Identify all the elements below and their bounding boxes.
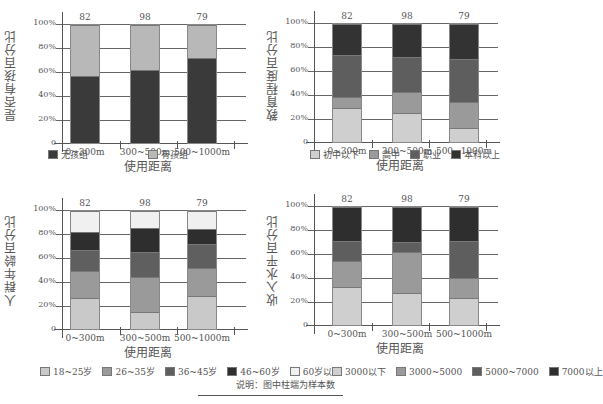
bar-segment <box>393 92 421 112</box>
bar-segment <box>71 298 99 329</box>
y-axis-label: 人群年龄百分比 <box>2 215 19 306</box>
legend-label: 本科以上 <box>464 148 500 161</box>
legend-item: 26~35岁 <box>102 365 154 378</box>
bar-segment <box>450 128 478 142</box>
y-tick-label: 20% <box>26 300 56 309</box>
legend-label: 3000以下 <box>345 365 386 378</box>
bar-segment <box>393 113 421 143</box>
legend-item: 本科以上 <box>451 148 500 161</box>
y-tick-label: 60% <box>26 66 56 75</box>
bar-segment <box>333 97 361 108</box>
bar-segment <box>188 229 216 244</box>
sample-size-label: 82 <box>332 194 362 204</box>
y-tick-label: 20% <box>26 114 56 123</box>
legend-swatch <box>165 367 175 376</box>
y-tick-label: 80% <box>278 224 308 233</box>
bar-segment <box>71 250 99 271</box>
children-chart: 是否有孩百分比020%40%60%80%100%820~300m98300~50… <box>0 0 260 190</box>
y-tick-label: 100% <box>278 200 308 209</box>
bar-segment <box>188 25 216 58</box>
y-tick-label: 20% <box>278 296 308 305</box>
y-tick-label: 60% <box>26 252 56 261</box>
bar-segment <box>188 296 216 329</box>
legend-item: 7000以上 <box>549 365 603 378</box>
y-tick-label: 0 <box>26 138 56 147</box>
legend-swatch <box>48 150 58 159</box>
bar-segment <box>131 277 159 312</box>
legend-label: 职业 <box>423 148 441 161</box>
y-axis <box>314 11 315 151</box>
legend-item: 5000~7000 <box>472 367 538 377</box>
bar-segment <box>188 58 216 143</box>
bar-segment <box>333 241 361 261</box>
legend-label: 高中 <box>382 148 400 161</box>
bar-segment <box>393 242 421 251</box>
stacked-bar <box>392 206 422 326</box>
stacked-bar <box>187 210 217 330</box>
y-tick-label: 40% <box>278 272 308 281</box>
x-axis-label: 使用距离 <box>124 343 172 360</box>
bar-segment <box>131 228 159 253</box>
stacked-bar <box>449 206 479 326</box>
legend: 3000以下3000~50005000~70007000以上 <box>332 365 603 378</box>
age-chart: 人群年龄百分比020%40%60%80%100%820~300m98300~50… <box>0 195 260 385</box>
sample-size-label: 98 <box>392 194 422 204</box>
sample-size-label: 98 <box>130 198 160 208</box>
bar-segment <box>71 271 99 298</box>
legend-label: 3000~5000 <box>409 367 462 377</box>
bar-segment <box>333 261 361 287</box>
bar-segment <box>131 252 159 277</box>
bar-segment <box>71 76 99 143</box>
y-tick-label: 40% <box>278 89 308 98</box>
y-tick-label: 60% <box>278 248 308 257</box>
bar-segment <box>333 287 361 325</box>
bar-segment <box>393 293 421 325</box>
y-tick-label: 100% <box>26 18 56 27</box>
legend-item: 有孩组 <box>148 148 188 161</box>
legend-label: 26~35岁 <box>115 365 154 378</box>
legend-item: 36~45岁 <box>165 365 217 378</box>
stacked-bar <box>70 24 100 144</box>
y-axis-label: 是否有孩百分比 <box>2 30 19 121</box>
legend-swatch <box>410 150 420 159</box>
bar-segment <box>188 268 216 296</box>
bar-segment <box>450 241 478 278</box>
legend-item: 3000以下 <box>332 365 386 378</box>
legend-item: 18~25岁 <box>40 365 92 378</box>
stacked-bar <box>70 210 100 330</box>
legend-label: 7000以上 <box>562 365 603 378</box>
education-chart: 教育程度百分比020%40%60%80%100%820~300m98300~50… <box>262 0 522 190</box>
sample-size-label: 98 <box>130 12 160 22</box>
x-axis-label: 使用距离 <box>376 339 424 356</box>
bar-segment <box>131 25 159 70</box>
bar-segment <box>333 55 361 97</box>
bar-segment <box>393 207 421 242</box>
legend-label: 18~25岁 <box>53 365 92 378</box>
bar-segment <box>450 102 478 128</box>
stacked-bar <box>332 206 362 326</box>
legend-label: 5000~7000 <box>485 367 538 377</box>
footnote: 说明：图中柱端为样本数 <box>225 378 345 391</box>
y-axis <box>62 12 63 152</box>
y-tick-label: 80% <box>26 42 56 51</box>
sample-size-label: 82 <box>332 11 362 21</box>
legend-item: 无孩组 <box>48 148 88 161</box>
footnote-underline <box>198 395 343 396</box>
bar-segment <box>333 24 361 55</box>
legend-item: 3000~5000 <box>396 367 462 377</box>
sample-size-label: 79 <box>187 12 217 22</box>
x-tick-label: 500~1000m <box>429 329 499 339</box>
x-tick-label: 500~1000m <box>167 333 237 343</box>
legend-item: 高中 <box>369 148 400 161</box>
sample-size-label: 82 <box>70 12 100 22</box>
legend-label: 无孩组 <box>61 148 88 161</box>
bar-segment <box>450 59 478 101</box>
bar-segment <box>450 278 478 298</box>
y-tick-label: 40% <box>26 276 56 285</box>
legend: 初中以下高中职业本科以上 <box>310 148 500 161</box>
legend-item: 职业 <box>410 148 441 161</box>
sample-size-label: 98 <box>392 11 422 21</box>
y-tick-label: 100% <box>26 204 56 213</box>
y-tick-label: 60% <box>278 65 308 74</box>
plot-area: 020%40%60%80%100%820~300m98300~500m79500… <box>62 24 240 144</box>
